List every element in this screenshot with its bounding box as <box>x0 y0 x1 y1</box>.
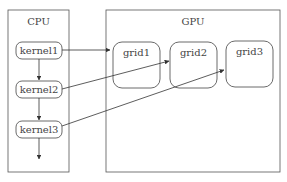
grid1-label: grid1 <box>123 47 150 58</box>
grid2-label: grid2 <box>180 47 207 58</box>
kernel1-label: kernel1 <box>20 45 59 56</box>
cpu-gpu-diagram: CPU kernel1 kernel2 kernel3 GPU grid1 gr… <box>0 0 287 182</box>
grid3-label: grid3 <box>236 46 263 57</box>
cpu-title: CPU <box>27 16 50 27</box>
kernel2-label: kernel2 <box>20 84 59 95</box>
kernel3-node: kernel3 <box>16 121 62 138</box>
gpu-box: GPU <box>106 10 280 172</box>
kernel1-node: kernel1 <box>16 42 62 59</box>
grid3-node: grid3 <box>226 41 273 87</box>
kernel3-label: kernel3 <box>20 124 59 135</box>
gpu-title: GPU <box>182 16 205 27</box>
kernel2-node: kernel2 <box>16 81 62 98</box>
grid2-node: grid2 <box>170 42 217 88</box>
